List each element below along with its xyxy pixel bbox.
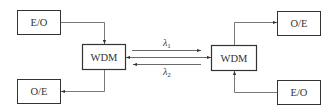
connector-wdm-to-oe-left xyxy=(61,70,105,92)
connector-wdm-to-oe-right xyxy=(235,23,278,46)
wdm-label-right: WDM xyxy=(221,53,248,64)
connector-eo-to-wdm-left xyxy=(61,23,105,45)
eo-label-left: E/O xyxy=(31,17,48,28)
oe-box-left: O/E xyxy=(18,80,61,104)
wdm-bidirectional-diagram: E/O O/E WDM WDM O/E E/O λ1 λ2 xyxy=(0,0,336,111)
eo-label-right: E/O xyxy=(291,87,308,98)
wdm-box-right: WDM xyxy=(212,46,257,71)
oe-label-left: O/E xyxy=(31,86,48,97)
wdm-box-left: WDM xyxy=(83,45,126,70)
wdm-label-left: WDM xyxy=(91,52,118,63)
lambda2-label: λ2 xyxy=(162,66,171,79)
eo-box-left: E/O xyxy=(18,11,61,35)
connector-eo-to-wdm-right xyxy=(235,71,278,93)
lambda1-label: λ1 xyxy=(162,37,171,50)
oe-box-right: O/E xyxy=(278,12,321,36)
oe-label-right: O/E xyxy=(291,18,308,29)
eo-box-right: E/O xyxy=(278,81,321,105)
